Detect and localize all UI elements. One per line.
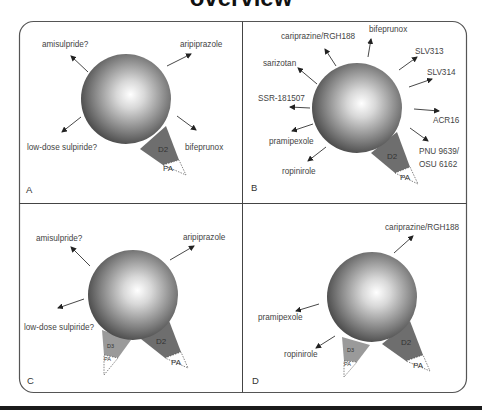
drug-label: bifeprunox bbox=[369, 25, 407, 34]
drug-label: cariprazine/RGH188 bbox=[281, 32, 356, 41]
drug-label: low-dose sulpiride? bbox=[24, 323, 95, 332]
drug-label: SSR-181507 bbox=[258, 94, 305, 103]
d3-wedge-label: D3 bbox=[107, 343, 114, 349]
panel-label: B bbox=[251, 182, 257, 193]
panel-a: D2 PA amisulpride? aripiprazole low-dose… bbox=[26, 40, 223, 195]
panel-label: D bbox=[252, 375, 259, 386]
pa-wedge-label: PA bbox=[344, 361, 351, 367]
panel-label: A bbox=[26, 184, 33, 195]
drug-label: aripiprazole bbox=[183, 233, 226, 242]
drug-label: PNU 9639/ bbox=[419, 147, 460, 156]
drug-label: low-dose sulpiride? bbox=[27, 143, 98, 152]
pa-wedge-label: PA bbox=[400, 173, 411, 182]
drug-label: amisulpride? bbox=[36, 234, 83, 243]
drug-label: pramipexole bbox=[258, 313, 303, 322]
drug-label: ACR16 bbox=[433, 116, 460, 125]
pa-wedge-label: PA bbox=[413, 361, 424, 370]
d2-wedge-label: D2 bbox=[401, 338, 412, 347]
drug-label: ropinirole bbox=[284, 350, 318, 359]
panel-c: D3 PA D2 PA amisulpride? aripiprazole lo… bbox=[24, 233, 226, 386]
drug-label: OSU 6162 bbox=[419, 160, 458, 169]
receptor-sphere bbox=[88, 250, 178, 340]
panel-label: C bbox=[27, 375, 34, 386]
drug-label: pramipexole bbox=[269, 137, 314, 146]
drug-label: SLV313 bbox=[415, 47, 444, 56]
drug-label: bifeprunox bbox=[185, 143, 223, 152]
pa-wedge-label: PA bbox=[171, 358, 182, 367]
d2-wedge-label: D2 bbox=[158, 145, 169, 154]
d3-wedge-label: D3 bbox=[347, 347, 354, 353]
drug-label: sarizotan bbox=[263, 59, 297, 68]
drug-label: ropinirole bbox=[282, 167, 316, 176]
receptor-sphere bbox=[81, 54, 171, 144]
receptor-sphere bbox=[327, 252, 417, 342]
pa-wedge-label: PA bbox=[104, 356, 111, 362]
panel-d: D3 PA D2 PA cariprazine/RGH188 pramipexo… bbox=[252, 223, 460, 386]
drug-label: SLV314 bbox=[427, 68, 456, 77]
d2-wedge-label: D2 bbox=[156, 337, 167, 346]
d2-wedge-label: D2 bbox=[387, 152, 398, 161]
drug-label: aripiprazole bbox=[180, 40, 223, 49]
d3-receptor-wedge: D3 PA bbox=[342, 337, 370, 377]
receptor-sphere bbox=[312, 63, 402, 153]
overview-diagram: D2 PA amisulpride? aripiprazole low-dose… bbox=[0, 0, 482, 410]
drug-label: cariprazine/RGH188 bbox=[385, 223, 460, 232]
bottom-border-band bbox=[0, 406, 482, 410]
panel-b: D2 PA cariprazine/RGH188 bifeprunox sari… bbox=[251, 25, 460, 193]
pa-wedge-label: PA bbox=[163, 164, 174, 173]
drug-label: amisulpride? bbox=[42, 40, 89, 49]
